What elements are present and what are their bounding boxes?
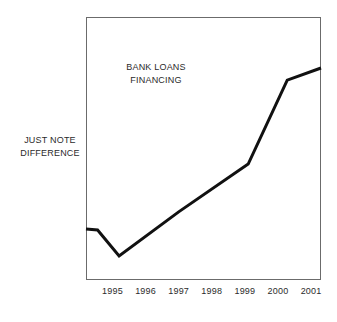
chart-title-line-1: BANK LOANS (118, 61, 194, 74)
chart-title-line-2: FINANCING (118, 74, 194, 87)
data-series-line (86, 17, 321, 280)
series-polyline (86, 68, 321, 256)
x-tick-label-1996: 1996 (129, 286, 163, 297)
x-axis-tick-labels: 1995199619971998199920002001 (86, 286, 321, 300)
side-annotation-line-1: JUST NOTE (14, 134, 86, 147)
side-annotation-line-2: DIFFERENCE (14, 147, 86, 160)
x-tick-label-1998: 1998 (195, 286, 229, 297)
x-tick-label-2000: 2000 (261, 286, 295, 297)
side-annotation-label: JUST NOTE DIFFERENCE (14, 134, 86, 159)
x-tick-label-2001: 2001 (294, 286, 328, 297)
x-tick-label-1997: 1997 (162, 286, 196, 297)
chart-title: BANK LOANS FINANCING (118, 61, 194, 86)
chart-figure: BANK LOANS FINANCING JUST NOTE DIFFERENC… (0, 0, 337, 322)
x-tick-label-1995: 1995 (95, 286, 129, 297)
x-tick-label-1999: 1999 (228, 286, 262, 297)
